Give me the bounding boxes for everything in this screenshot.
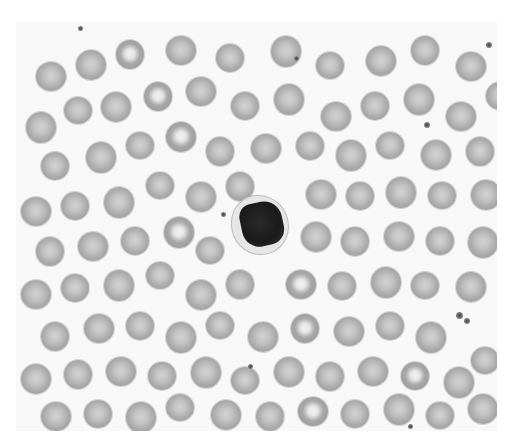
lymphocyte-nucleus [237, 198, 287, 250]
red-blood-cell [336, 140, 366, 171]
red-blood-cell [411, 36, 439, 65]
red-blood-cell [64, 360, 92, 389]
red-blood-cell [61, 192, 89, 220]
red-blood-cell [144, 82, 172, 111]
platelet [294, 56, 299, 61]
red-blood-cell [471, 347, 497, 374]
red-blood-cell [456, 272, 486, 302]
microscope-field [16, 22, 497, 431]
red-blood-cell [84, 400, 112, 428]
red-blood-cell [411, 272, 439, 299]
red-blood-cell [26, 112, 56, 143]
red-blood-cell [371, 267, 401, 298]
red-blood-cell [328, 272, 356, 300]
red-blood-cell [296, 132, 324, 160]
red-blood-cell [446, 102, 476, 131]
red-blood-cell [101, 92, 131, 122]
red-blood-cell [346, 182, 374, 210]
red-blood-cell [76, 50, 106, 80]
red-blood-cell [166, 394, 194, 421]
red-blood-cell [106, 357, 136, 386]
red-blood-cell [456, 52, 486, 81]
red-blood-cell [61, 274, 89, 302]
red-blood-cell [206, 137, 234, 166]
red-blood-cell [384, 222, 414, 251]
red-blood-cell [36, 62, 66, 91]
red-blood-cell [386, 177, 416, 208]
red-blood-cell [384, 394, 414, 425]
red-blood-cell [21, 280, 51, 309]
red-blood-cell [126, 312, 154, 340]
red-blood-cell [401, 362, 429, 390]
platelet [78, 26, 83, 31]
red-blood-cell [334, 317, 364, 346]
red-blood-cell [426, 227, 454, 255]
red-blood-cell [301, 222, 331, 252]
red-blood-cell [471, 180, 497, 210]
platelet [408, 424, 413, 429]
platelet [248, 364, 253, 369]
red-blood-cell [316, 362, 344, 391]
red-blood-cell [274, 84, 304, 115]
red-blood-cell [36, 237, 64, 266]
red-blood-cell [216, 44, 244, 72]
red-blood-cell [226, 270, 254, 299]
red-blood-cell [116, 40, 144, 69]
red-blood-cell [376, 312, 404, 340]
red-blood-cell [286, 270, 316, 299]
red-blood-cell [361, 92, 389, 120]
red-blood-cell [86, 142, 116, 173]
red-blood-cell [206, 312, 234, 339]
red-blood-cell [466, 137, 494, 166]
red-blood-cell [126, 402, 156, 431]
red-blood-cell [84, 314, 114, 343]
red-blood-cell [21, 197, 51, 226]
red-blood-cell [196, 237, 224, 264]
red-blood-cell [166, 122, 196, 152]
red-blood-cell [274, 357, 304, 387]
red-blood-cell [341, 227, 369, 256]
red-blood-cell [291, 314, 319, 343]
red-blood-cell [104, 270, 134, 301]
red-blood-cell [41, 322, 69, 351]
red-blood-cell [211, 400, 241, 430]
red-blood-cell [256, 402, 284, 431]
red-blood-cell [231, 367, 259, 394]
red-blood-cell [186, 77, 216, 106]
red-blood-cell [468, 227, 497, 258]
red-blood-cell [468, 394, 497, 424]
red-blood-cell [186, 182, 216, 212]
red-blood-cell [298, 397, 328, 426]
platelet [464, 318, 470, 324]
red-blood-cell [146, 262, 174, 289]
red-blood-cell [126, 132, 154, 159]
red-blood-cell [416, 322, 446, 353]
red-blood-cell [486, 82, 497, 110]
red-blood-cell [321, 102, 351, 131]
red-blood-cell [41, 152, 69, 180]
red-blood-cell [376, 132, 404, 159]
red-blood-cell [191, 357, 221, 388]
red-blood-cell [148, 362, 176, 390]
red-blood-cell [166, 322, 196, 353]
lymphocyte [232, 196, 288, 254]
red-blood-cell [341, 400, 369, 428]
red-blood-cell [146, 172, 174, 199]
red-blood-cell [186, 280, 216, 310]
red-blood-cell [104, 187, 134, 218]
platelet [424, 122, 430, 128]
red-blood-cell [404, 84, 434, 115]
red-blood-cell [358, 357, 388, 386]
platelet [221, 212, 226, 217]
red-blood-cell [231, 92, 259, 120]
red-blood-cell [21, 364, 51, 394]
platelet [486, 42, 492, 48]
red-blood-cell [121, 227, 149, 255]
red-blood-cell [426, 402, 454, 429]
red-blood-cell [366, 46, 396, 76]
red-blood-cell [248, 322, 278, 352]
red-blood-cell [64, 97, 92, 124]
red-blood-cell [306, 180, 336, 209]
red-blood-cell [78, 232, 108, 261]
platelet [456, 312, 463, 319]
